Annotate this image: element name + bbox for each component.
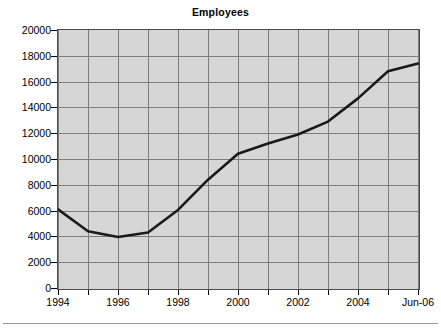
x-tick-label: 2000 [226,297,249,308]
chart-title: Employees [0,6,441,18]
x-tick-mark [358,290,359,295]
x-tick-mark [58,290,59,295]
x-tick-mark [328,290,329,295]
bottom-divider [3,323,438,324]
plot-svg [58,30,419,289]
x-tick-mark [148,290,149,295]
x-tick-mark [298,290,299,295]
plot-area [57,29,420,290]
x-tick-label: 1996 [106,297,129,308]
x-tick-mark [208,290,209,295]
x-tick-mark [118,290,119,295]
x-tick-mark [388,290,389,295]
x-tick-label: 2002 [286,297,309,308]
x-axis-labels: 199419961998200020022004Jun-06 [0,297,441,311]
x-tick-mark [178,290,179,295]
x-tick-label: 1994 [46,297,69,308]
x-tick-mark [418,290,419,295]
y-axis-ticks [0,29,57,290]
x-tick-label: 1998 [166,297,189,308]
x-tick-label: Jun-06 [402,297,434,308]
x-tick-mark [238,290,239,295]
x-tick-label: 2004 [346,297,369,308]
chart-figure: Employees 020004000600080001000012000140… [0,0,441,332]
x-tick-mark [268,290,269,295]
x-tick-mark [88,290,89,295]
